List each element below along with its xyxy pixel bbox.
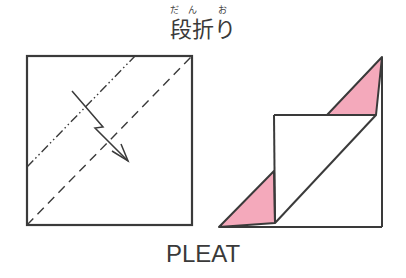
- inner-left-edge: [274, 115, 275, 223]
- after-fold-figure: [219, 57, 382, 227]
- diagram-caption: PLEAT: [0, 240, 406, 268]
- pleat-diagonal-edge: [275, 115, 376, 223]
- pleat-diagram: [0, 0, 406, 278]
- pink-flap-bottom: [219, 171, 275, 227]
- pink-flap-top: [327, 57, 382, 115]
- before-fold-figure: [27, 56, 192, 225]
